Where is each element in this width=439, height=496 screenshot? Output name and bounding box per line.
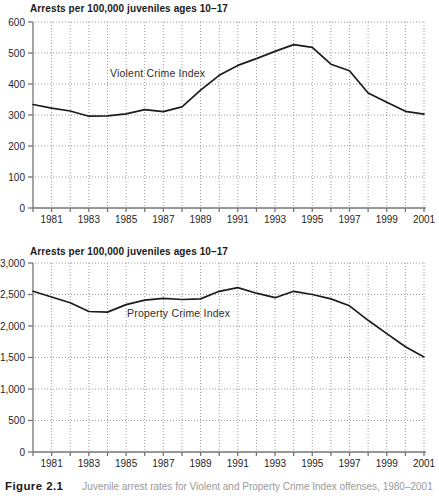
svg-text:1995: 1995	[301, 458, 324, 469]
svg-text:600: 600	[8, 17, 25, 28]
svg-text:1989: 1989	[189, 214, 212, 225]
svg-text:2,500: 2,500	[0, 289, 25, 300]
svg-text:1995: 1995	[301, 214, 324, 225]
violent-crime-plot: 0100200300400500600198119831985198719891…	[0, 16, 439, 228]
svg-text:1993: 1993	[264, 458, 287, 469]
svg-text:1989: 1989	[189, 458, 212, 469]
svg-text:400: 400	[8, 79, 25, 90]
property-crime-index-axes	[28, 263, 426, 456]
svg-text:1991: 1991	[227, 214, 250, 225]
violent-crime-index-x-tick-labels: 1981198319851987198919911993199519971999…	[40, 214, 435, 225]
svg-text:300: 300	[8, 110, 25, 121]
property-crime-chart: Arrests per 100,000 juveniles ages 10–17…	[0, 240, 439, 472]
svg-text:1,000: 1,000	[0, 384, 25, 395]
svg-text:500: 500	[8, 48, 25, 59]
svg-text:1987: 1987	[152, 214, 175, 225]
svg-text:1997: 1997	[338, 458, 361, 469]
svg-text:3,000: 3,000	[0, 258, 25, 269]
property-crime-index-series-line	[33, 288, 424, 357]
svg-text:1999: 1999	[376, 214, 399, 225]
figure-caption-text: Juvenile arrest rates for Violent and Pr…	[82, 481, 432, 492]
svg-text:1997: 1997	[338, 214, 361, 225]
property-series-label: Property Crime Index	[127, 307, 230, 319]
svg-text:1999: 1999	[376, 458, 399, 469]
svg-text:1987: 1987	[152, 458, 175, 469]
violent-series-label: Violent Crime Index	[110, 67, 205, 79]
property-crime-index-gridlines	[35, 263, 424, 452]
svg-text:1985: 1985	[115, 458, 138, 469]
violent-crime-index-gridlines	[35, 22, 424, 208]
figure-caption-label: Figure 2.1	[5, 480, 63, 492]
violent-crime-index-axes	[28, 22, 426, 212]
property-crime-index-y-tick-labels: 05001,0001,5002,0002,5003,000	[0, 258, 25, 458]
svg-text:1983: 1983	[78, 458, 101, 469]
violent-crime-index-series-line	[33, 45, 424, 117]
svg-text:2,000: 2,000	[0, 321, 25, 332]
figure-caption: Figure 2.1Juvenile arrest rates for Viol…	[5, 476, 439, 496]
svg-text:1991: 1991	[227, 458, 250, 469]
svg-text:1993: 1993	[264, 214, 287, 225]
svg-text:200: 200	[8, 141, 25, 152]
svg-text:2001: 2001	[413, 214, 436, 225]
property-crime-index-x-tick-labels: 1981198319851987198919911993199519971999…	[40, 458, 435, 469]
svg-text:1,500: 1,500	[0, 352, 25, 363]
svg-text:1985: 1985	[115, 214, 138, 225]
svg-text:1981: 1981	[40, 458, 63, 469]
violent-crime-index-y-tick-labels: 0100200300400500600	[8, 17, 25, 214]
violent-crime-chart: Arrests per 100,000 juveniles ages 10–17…	[0, 0, 439, 232]
svg-text:100: 100	[8, 172, 25, 183]
svg-text:1981: 1981	[40, 214, 63, 225]
svg-text:500: 500	[8, 415, 25, 426]
svg-text:0: 0	[19, 447, 25, 458]
svg-text:1983: 1983	[78, 214, 101, 225]
svg-text:2001: 2001	[413, 458, 436, 469]
svg-text:0: 0	[19, 203, 25, 214]
violent-chart-title: Arrests per 100,000 juveniles ages 10–17	[30, 3, 228, 15]
property-crime-plot: 05001,0001,5002,0002,5003,00019811983198…	[0, 257, 439, 473]
